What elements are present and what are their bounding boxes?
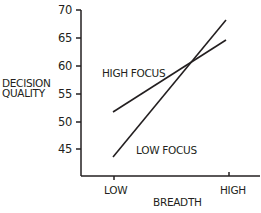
- y-tick-label: 70: [48, 4, 72, 16]
- annotation-high-focus: HIGH FOCUS: [102, 68, 165, 79]
- chart-canvas: [0, 0, 261, 213]
- x-tick-label-low: LOW: [104, 185, 127, 196]
- y-tick-label: 60: [48, 60, 72, 72]
- y-tick-label: 45: [48, 143, 72, 155]
- y-tick-label: 65: [48, 32, 72, 44]
- x-tick-label-high: HIGH: [220, 185, 246, 196]
- y-tick-label: 55: [48, 88, 72, 100]
- series-line-low-focus: [113, 20, 226, 157]
- annotation-low-focus: LOW FOCUS: [136, 145, 197, 156]
- x-axis-label: BREADTH: [153, 197, 202, 208]
- y-axis-label-line2: QUALITY: [2, 88, 45, 99]
- y-tick-label: 50: [48, 116, 72, 128]
- interaction-line-chart: 70 65 60 55 50 45 DECISION QUALITY LOW H…: [0, 0, 261, 213]
